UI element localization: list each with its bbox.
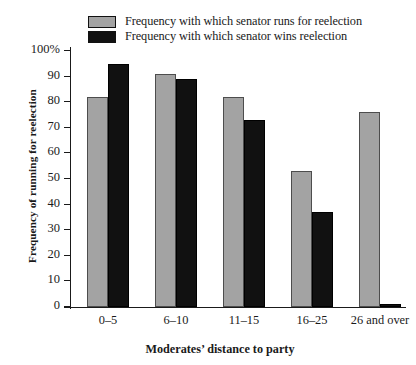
x-tick-label: 11–15 [229,313,260,328]
y-tick: 100% [64,50,71,51]
y-tick: 60 [64,152,71,153]
legend-swatch-runs-icon [88,16,116,28]
y-tick: 50 [64,178,71,179]
bar-chart-figure: Frequency with which senator runs for re… [0,0,416,365]
y-tick-label: 30 [48,221,61,236]
bar [155,74,176,307]
y-tick: 80 [64,101,71,102]
bar [244,120,265,307]
plot-area: 0102030405060708090100% 0–56–1011–1516–2… [70,51,410,307]
y-tick: 70 [64,127,71,128]
y-tick-label: 10 [48,272,61,287]
y-tick-label: 0 [54,298,60,313]
legend-item-wins: Frequency with which senator wins reelec… [88,30,408,43]
chart-legend: Frequency with which senator runs for re… [88,15,408,45]
legend-item-runs: Frequency with which senator runs for re… [88,15,408,28]
x-axis-title: Moderates’ distance to party [70,342,370,357]
legend-swatch-wins-icon [88,31,116,43]
y-tick-label: 20 [48,247,61,262]
bar [359,112,380,307]
y-tick-label: 90 [48,68,61,83]
x-tick-label: 6–10 [164,313,189,328]
y-axis-title: Frequency of running for reelection [26,51,38,301]
y-tick-label: 70 [48,119,61,134]
y-tick: 30 [64,229,71,230]
bar [380,304,401,307]
y-tick-label: 60 [48,144,61,159]
bar [87,97,108,307]
bar [108,64,129,307]
bar [291,171,312,307]
y-tick: 10 [64,280,71,281]
x-axis-line [64,307,406,308]
y-tick: 20 [64,255,71,256]
y-tick-label: 80 [48,93,61,108]
y-tick: 0 [64,306,71,307]
bar [176,79,197,307]
y-tick: 90 [64,76,71,77]
y-tick-label: 50 [48,170,61,185]
y-tick-label: 100% [31,42,60,57]
y-tick-label: 40 [48,196,61,211]
bar [312,212,333,307]
x-tick-label: 26 and over [351,313,410,328]
legend-label-wins: Frequency with which senator wins reelec… [125,30,347,43]
x-tick-label: 16–25 [297,313,328,328]
x-tick-label: 0–5 [99,313,118,328]
bar [223,97,244,307]
legend-label-runs: Frequency with which senator runs for re… [125,15,362,28]
y-tick: 40 [64,204,71,205]
